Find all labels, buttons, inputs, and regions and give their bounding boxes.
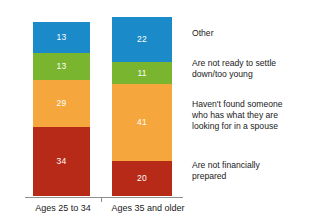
bar-1-value-other: 13 <box>57 33 67 42</box>
bar-1-segment-not-ready[interactable]: 13 <box>33 53 90 80</box>
legend-label-not-found-line-2: who has what they are <box>192 110 310 121</box>
legend-label-not-ready-line-1: Are not ready to settle <box>192 58 310 69</box>
legend-label-other-line-1: Other <box>192 28 310 39</box>
category-label-ages-35-and-older: Ages 35 and older <box>101 204 195 213</box>
bar-2-value-not-found: 41 <box>137 118 147 127</box>
legend-label-not-ready: Are not ready to settle down/too young <box>192 58 310 80</box>
bar-2-segment-other[interactable]: 22 <box>112 17 172 62</box>
bar-ages-25-to-34[interactable]: 13 13 29 34 <box>33 22 90 196</box>
bar-ages-35-and-older[interactable]: 22 11 41 20 <box>112 17 172 196</box>
legend-label-not-financially-prepared-line-2: prepared <box>192 171 310 182</box>
bar-1-segment-not-financially-prepared[interactable]: 34 <box>33 127 90 196</box>
category-label-ages-25-to-34: Ages 25 to 34 <box>25 204 101 213</box>
bar-1-value-not-found: 29 <box>57 99 67 108</box>
bar-1-value-not-financially-prepared: 34 <box>57 157 67 166</box>
legend-label-not-found-line-3: looking for in a spouse <box>192 121 310 132</box>
bar-1-value-not-ready: 13 <box>57 62 67 71</box>
legend-label-other: Other <box>192 28 310 39</box>
legend-label-not-ready-line-2: down/too young <box>192 69 310 80</box>
category-axis-tick <box>101 198 102 202</box>
bar-2-value-not-financially-prepared: 20 <box>137 174 147 183</box>
category-axis-line <box>25 197 183 198</box>
legend-label-not-financially-prepared: Are not financially prepared <box>192 160 310 182</box>
stacked-bar-chart: 13 13 29 34 22 11 41 20 Ages 25 to 34 Ag… <box>0 0 310 217</box>
bar-2-segment-not-ready[interactable]: 11 <box>112 62 172 84</box>
legend-label-not-found-line-1: Haven't found someone <box>192 99 310 110</box>
bar-2-segment-not-financially-prepared[interactable]: 20 <box>112 161 172 196</box>
bar-2-segment-not-found[interactable]: 41 <box>112 84 172 161</box>
bar-2-value-other: 22 <box>137 35 147 44</box>
bar-2-value-not-ready: 11 <box>137 69 146 78</box>
bar-1-segment-other[interactable]: 13 <box>33 22 90 53</box>
bar-1-segment-not-found[interactable]: 29 <box>33 80 90 127</box>
legend-label-not-found: Haven't found someone who has what they … <box>192 99 310 132</box>
legend-label-not-financially-prepared-line-1: Are not financially <box>192 160 310 171</box>
